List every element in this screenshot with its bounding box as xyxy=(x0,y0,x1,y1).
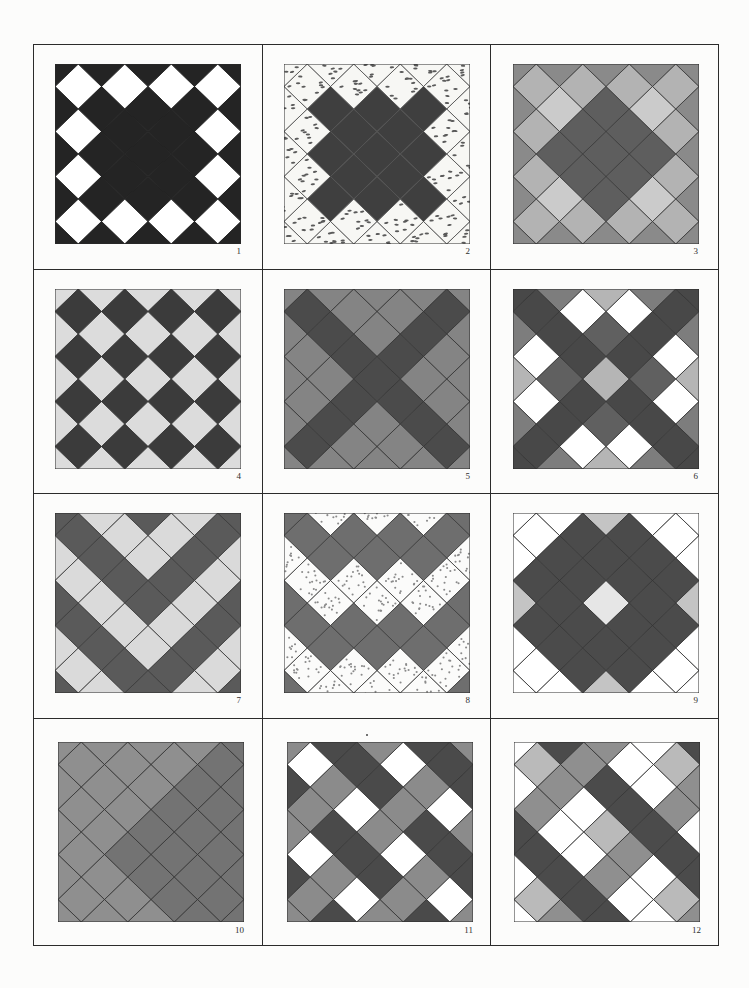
quilt-pattern-svg xyxy=(513,513,699,693)
quilt-panel-10: 10 xyxy=(34,719,263,945)
quilt-panel-7: 7 xyxy=(34,494,263,719)
quilt-number-label: 1 xyxy=(55,246,241,256)
quilt-illustration xyxy=(284,64,470,244)
quilt-pattern-svg xyxy=(514,742,700,922)
quilt-number-label: 2 xyxy=(284,246,470,256)
quilt-plate-grid: 1 2 3 4 5 6 7 8 9 10 11 12 xyxy=(33,44,719,946)
quilt-number-label: 6 xyxy=(512,471,698,481)
stray-ink-mark xyxy=(366,734,368,736)
quilt-number-label: 8 xyxy=(284,695,470,705)
quilt-panel-4: 4 xyxy=(34,270,263,494)
quilt-illustration xyxy=(55,289,241,469)
quilt-pattern-svg xyxy=(55,64,241,244)
quilt-panel-12: 12 xyxy=(491,719,718,945)
quilt-panel-5: 5 xyxy=(263,270,491,494)
quilt-number-label: 11 xyxy=(287,925,473,935)
quilt-number-label: 9 xyxy=(512,695,698,705)
quilt-pattern-svg xyxy=(55,513,241,693)
quilt-number-label: 3 xyxy=(512,246,698,256)
quilt-pattern-svg xyxy=(284,289,470,469)
quilt-number-label: 4 xyxy=(55,471,241,481)
quilt-pattern-svg xyxy=(513,64,699,244)
quilt-panel-2: 2 xyxy=(263,45,491,270)
quilt-panel-11: 11 xyxy=(263,719,491,945)
quilt-illustration xyxy=(513,513,699,693)
quilt-panel-8: 8 xyxy=(263,494,491,719)
quilt-number-label: 10 xyxy=(58,925,244,935)
quilt-illustration xyxy=(287,742,473,922)
quilt-illustration xyxy=(514,742,700,922)
quilt-number-label: 12 xyxy=(515,925,701,935)
quilt-panel-6: 6 xyxy=(491,270,718,494)
quilt-panel-9: 9 xyxy=(491,494,718,719)
quilt-number-label: 7 xyxy=(55,695,241,705)
quilt-illustration xyxy=(513,64,699,244)
quilt-pattern-svg xyxy=(55,289,241,469)
quilt-illustration xyxy=(55,64,241,244)
quilt-illustration xyxy=(513,289,699,469)
quilt-pattern-svg xyxy=(287,742,473,922)
quilt-pattern-svg xyxy=(513,289,699,469)
quilt-panel-1: 1 xyxy=(34,45,263,270)
quilt-pattern-svg xyxy=(284,513,470,693)
quilt-illustration xyxy=(55,513,241,693)
quilt-illustration xyxy=(58,742,244,922)
quilt-illustration xyxy=(284,289,470,469)
quilt-pattern-svg xyxy=(284,64,470,244)
quilt-number-label: 5 xyxy=(284,471,470,481)
quilt-pattern-svg xyxy=(58,742,244,922)
quilt-illustration xyxy=(284,513,470,693)
quilt-panel-3: 3 xyxy=(491,45,718,270)
